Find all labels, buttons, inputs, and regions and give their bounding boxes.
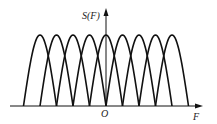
- spectral-lobe: [106, 35, 139, 106]
- spectral-lobe: [40, 35, 73, 106]
- x-axis-label: F: [192, 111, 200, 122]
- y-axis-label: S(F): [82, 10, 100, 22]
- y-axis-arrow-icon: [104, 8, 109, 16]
- spectral-lobe: [123, 35, 156, 106]
- spectrum-figure: S(F) F O: [0, 0, 217, 124]
- spectral-lobe: [24, 35, 57, 106]
- spectral-lobe: [139, 35, 172, 106]
- x-axis-arrow-icon: [195, 104, 203, 109]
- origin-label: O: [101, 108, 108, 119]
- spectral-lobe: [73, 35, 106, 106]
- spectral-lobe: [156, 35, 189, 106]
- spectral-lobe: [57, 35, 90, 106]
